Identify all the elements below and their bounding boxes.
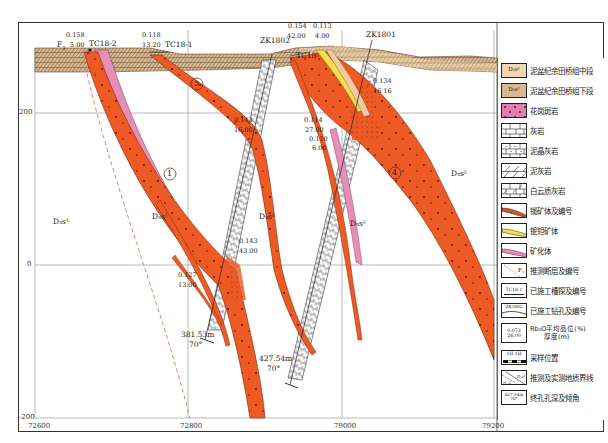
legend-item-sampling-position: 1H 1H 采样位置 <box>501 348 558 366</box>
sample-thickness: 16.16 <box>373 88 392 95</box>
legend-item-dolomitic-limestone: 白云质灰岩 <box>501 181 565 199</box>
legend-item-inferred-fault: F₃ 推测断层及编号 <box>501 261 579 279</box>
trench-tc18-x-label: TC18- <box>296 52 319 60</box>
strata-label-d3s1: D₃s¹ <box>152 213 168 221</box>
swatch-granite <box>501 103 527 118</box>
orebody-number-1: 1 <box>167 170 172 178</box>
sample-grade: 0.114 <box>304 117 323 124</box>
strata-label-d3s2: D₃s² <box>350 220 366 228</box>
swatch-geological-boundary: D₃s²D₃s¹ <box>501 370 527 385</box>
swatch-thickness: 26.00 <box>507 333 521 338</box>
swatch-boundary-text: D₃s² <box>517 374 526 379</box>
legend-label: 白云质灰岩 <box>530 185 565 196</box>
x-tick-72800: 72800 <box>180 423 202 430</box>
strata-label-d3s1: D₃s¹ <box>53 218 69 226</box>
legend-item-final-depth-angle: 427.54m70° 终孔孔深及倾角 <box>501 388 579 406</box>
sample-thickness: 6.00 <box>312 145 326 152</box>
borehole-end-depth: 427.54m <box>259 355 292 363</box>
swatch-inferred-fault: F₃ <box>501 263 527 278</box>
orebody-number-3: 3 <box>194 80 199 88</box>
swatch-dolomitic-limestone <box>501 183 527 198</box>
legend-label: 泥灰岩 <box>530 165 551 176</box>
y-tick-neg200: -200 <box>19 414 35 421</box>
zk1802-grade: 0.154 <box>288 23 307 30</box>
sample-thickness: 13.00 <box>178 282 197 289</box>
swatch-label: D₃s² <box>502 64 526 77</box>
swatch-mineralized-body <box>501 243 527 258</box>
legend-item-mineralized-body: 矿化体 <box>501 241 551 259</box>
legend-item-marl: 泥灰岩 <box>501 161 551 179</box>
legend-label: 花岗斑岩 <box>530 105 558 116</box>
x-tick-79200: 79200 <box>482 423 504 430</box>
legend-label: 推测及实测地质界线 <box>530 372 593 383</box>
legend-label: 已施工槽探及编号 <box>530 285 586 296</box>
y-tick-200: 200 <box>19 109 32 116</box>
fault-f3 <box>84 60 190 418</box>
sample-thickness: 43.00 <box>239 248 258 255</box>
swatch-fault-text: F₃ <box>518 266 525 274</box>
legend-item-geological-boundary: D₃s²D₃s¹ 推测及实测地质界线 <box>501 368 593 386</box>
swatch-final-depth-angle: 427.54m70° <box>501 390 527 405</box>
swatch-sampling-position: 1H 1H <box>501 350 527 365</box>
legend-label: 已施工钻孔及编号 <box>530 305 586 316</box>
sample-grade: 0.143 <box>234 117 253 124</box>
y-tick-0: 0 <box>27 261 31 268</box>
tc18-1-grade: 0.118 <box>142 32 161 39</box>
swatch-marl <box>501 163 527 178</box>
x-tick-79000: 79000 <box>334 423 356 430</box>
trench-tc18-2-label: TC18-2 <box>89 40 117 48</box>
tc18-x-thickness: 4.00 <box>315 33 329 40</box>
legend-label: 铌钽矿体 <box>530 225 558 236</box>
sample-thickness: 16.00 <box>234 127 253 134</box>
sample-grade: 0.110 <box>309 136 328 143</box>
swatch-rb-orebody <box>501 203 527 218</box>
strata-label-d3s2: D₃s² <box>259 213 275 221</box>
swatch-trench: TC18-1 <box>501 283 527 298</box>
borehole-zk1801-label: ZK1801 <box>366 31 396 39</box>
legend-label: 灰岩 <box>530 125 544 136</box>
swatch-micritic-limestone <box>501 143 527 158</box>
legend-item-micritic-limestone: 泥晶灰岩 <box>501 141 558 159</box>
swatch-borehole: ZK1802 <box>501 303 527 318</box>
legend-item-grade-thickness: 0.07326.00 Rb₂O平均品位(%) 厚度(m) <box>501 321 586 345</box>
legend-item-borehole: ZK1802 已施工钻孔及编号 <box>501 301 586 319</box>
legend-item-lower-member: D₃s¹ 泥盆纪余田桥组下段 <box>501 81 593 99</box>
swatch-label: D₃s¹ <box>502 84 526 97</box>
legend-item-middle-member: D₃s² 泥盆纪余田桥组中段 <box>501 61 593 79</box>
legend-label: 推测断层及编号 <box>530 265 579 276</box>
orebody-4 <box>290 52 494 360</box>
legend-item-nbta-orebody: 铌钽矿体 <box>501 221 558 239</box>
legend-label-line2: 厚度(m) <box>530 333 586 341</box>
legend-item-granite-porphyry: 花岗斑岩 <box>501 101 558 119</box>
legend-label: 终孔孔深及倾角 <box>530 392 579 403</box>
strata-label-d3s2: D₃s² <box>451 170 467 178</box>
tc18-1-thickness: 13.20 <box>142 42 161 49</box>
sample-grade: 0.143 <box>239 238 258 245</box>
tc18-2-thickness: 5.00 <box>70 42 84 49</box>
legend-item-limestone: 灰岩 <box>501 121 544 139</box>
legend-label: 矿化体 <box>530 245 551 256</box>
swatch-label: TC18-1 <box>502 284 526 297</box>
legend-label: 采样位置 <box>530 352 558 363</box>
trench-tc18-1-label: TC18-1 <box>165 41 193 49</box>
swatch-depth-values: 427.54m70° <box>502 391 526 404</box>
legend-label: 泥盆纪余田桥组下段 <box>530 85 593 96</box>
legend-label-grade-thickness: Rb₂O平均品位(%) 厚度(m) <box>530 325 586 342</box>
sample-thickness: 27.00 <box>305 127 324 134</box>
sample-grade: 0.127 <box>178 272 197 279</box>
orebody-number-4: 4 <box>392 169 397 177</box>
swatch-strata-middle: D₃s² <box>501 63 527 78</box>
swatch-boundary-text-2: D₃s¹ <box>503 381 512 385</box>
x-tick-72600: 72600 <box>28 423 50 430</box>
borehole-zk1802-label: ZK1802 <box>260 37 290 45</box>
swatch-grade-values: 0.07326.00 <box>502 324 526 342</box>
borehole-end-depth: 381.53m <box>181 331 214 339</box>
tc18-2-grade: 0.158 <box>66 32 85 39</box>
swatch-nbta-orebody <box>501 223 527 238</box>
swatch-limestone <box>501 123 527 138</box>
tc18-x-grade: 0.113 <box>313 23 332 30</box>
legend-label-line1: Rb₂O平均品位(%) <box>530 325 586 333</box>
fault-sub: 3 <box>62 45 65 51</box>
legend-label: 泥晶灰岩 <box>530 145 558 156</box>
borehole-end-angle: 70° <box>267 365 280 373</box>
